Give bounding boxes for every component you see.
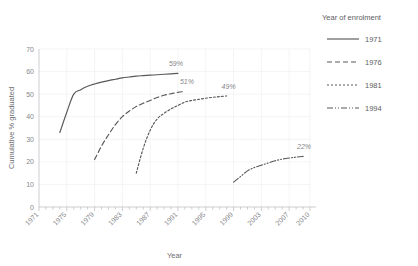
line-chart: 0102030405060701971197519791983198719911… (0, 0, 418, 266)
x-tick-label: 1975 (52, 211, 68, 227)
legend-label-1971[interactable]: 1971 (365, 35, 382, 44)
series-line-1971 (60, 73, 178, 132)
data-label-1971: 59% (169, 60, 183, 67)
x-tick-label: 1995 (191, 211, 207, 227)
x-tick-label: 2010 (295, 211, 311, 227)
data-label-1976: 51% (180, 78, 194, 85)
x-tick-label: 1987 (135, 211, 151, 227)
y-tick-label: 60 (26, 68, 34, 75)
y-tick-label: 50 (26, 91, 34, 98)
x-tick-label: 2003 (246, 211, 262, 227)
y-tick-label: 30 (26, 136, 34, 143)
y-tick-label: 70 (26, 46, 34, 53)
legend-title: Year of enrolment (322, 13, 382, 22)
x-tick-label: 1979 (79, 211, 95, 227)
data-label-1994: 22% (296, 143, 311, 150)
x-tick-label: 1999 (218, 211, 234, 227)
y-tick-label: 20 (26, 158, 34, 165)
y-tick-label: 0 (30, 204, 34, 211)
data-label-1981: 49% (222, 83, 236, 90)
chart-container: 0102030405060701971197519791983198719911… (0, 0, 418, 266)
series-line-1994 (234, 156, 303, 182)
x-tick-label: 1971 (24, 211, 40, 227)
x-tick-label: 1991 (163, 211, 179, 227)
series-line-1976 (95, 91, 185, 159)
x-tick-label: 2007 (274, 211, 290, 227)
y-tick-label: 40 (26, 113, 34, 120)
x-axis-title: Year (167, 251, 183, 260)
x-tick-label: 1983 (107, 211, 123, 227)
legend-label-1981[interactable]: 1981 (365, 81, 382, 90)
legend-label-1994[interactable]: 1994 (365, 104, 382, 113)
y-axis-title: Cumulative % graduated (7, 87, 16, 169)
y-tick-label: 10 (26, 181, 34, 188)
legend-label-1976[interactable]: 1976 (365, 58, 382, 67)
